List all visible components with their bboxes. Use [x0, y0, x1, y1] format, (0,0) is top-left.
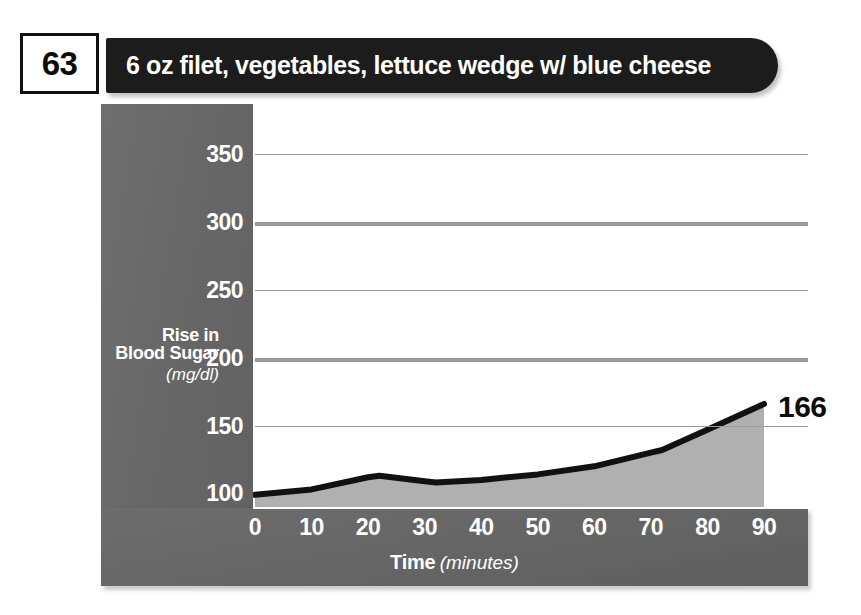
- x-tick-60: 60: [582, 514, 607, 541]
- gridline-350: [255, 154, 808, 155]
- end-value-label: 166: [778, 390, 827, 424]
- x-tick-0: 0: [249, 514, 261, 541]
- y-axis-labels: Rise in Blood Sugar (mg/dl) 100150200250…: [101, 104, 253, 586]
- y-tick-100: 100: [206, 480, 243, 507]
- x-tick-40: 40: [469, 514, 494, 541]
- x-axis-title-unit: (minutes): [440, 552, 519, 573]
- y-tick-350: 350: [206, 141, 243, 168]
- gridline-150: [255, 426, 808, 427]
- chart-container: Rise in Blood Sugar (mg/dl) 100150200250…: [101, 104, 808, 586]
- plot-area: [253, 104, 808, 509]
- gridline-300: [255, 222, 808, 226]
- chart-page: 63 6 oz filet, vegetables, lettuce wedge…: [0, 0, 861, 615]
- x-tick-70: 70: [639, 514, 664, 541]
- x-tick-50: 50: [525, 514, 550, 541]
- x-tick-90: 90: [752, 514, 777, 541]
- gridlines: [253, 104, 808, 509]
- meal-number: 63: [42, 47, 78, 80]
- y-axis-title-main: Rise in Blood Sugar: [109, 326, 219, 363]
- x-tick-30: 30: [412, 514, 437, 541]
- chart-header: 63 6 oz filet, vegetables, lettuce wedge…: [0, 0, 861, 100]
- gridline-200: [255, 358, 808, 362]
- x-tick-10: 10: [299, 514, 324, 541]
- y-tick-150: 150: [206, 412, 243, 439]
- meal-title: 6 oz filet, vegetables, lettuce wedge w/…: [126, 51, 711, 80]
- x-axis-title: Time (minutes): [101, 551, 808, 574]
- gridline-250: [255, 290, 808, 291]
- y-tick-250: 250: [206, 276, 243, 303]
- x-tick-20: 20: [356, 514, 381, 541]
- y-tick-300: 300: [206, 209, 243, 236]
- y-axis-title: Rise in Blood Sugar (mg/dl): [109, 326, 219, 383]
- y-axis-title-unit: (mg/dl): [109, 366, 219, 383]
- y-tick-200: 200: [206, 344, 243, 371]
- meal-number-badge: 63: [20, 33, 99, 94]
- x-axis-title-main: Time: [390, 551, 435, 573]
- x-tick-80: 80: [695, 514, 720, 541]
- meal-title-bar: 6 oz filet, vegetables, lettuce wedge w/…: [106, 38, 778, 93]
- x-axis-labels: 0102030405060708090: [253, 508, 808, 548]
